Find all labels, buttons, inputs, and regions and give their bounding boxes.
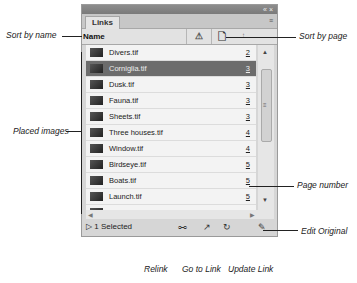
relink-button[interactable]: ⧟	[178, 222, 187, 233]
selection-status: ▷ 1 Selected	[86, 222, 132, 231]
callout-page-number: Page number	[297, 180, 348, 190]
callout-relink: Relink	[144, 264, 168, 274]
sort-by-name-header[interactable]: Name	[83, 32, 105, 41]
page-number-link[interactable]: 3	[246, 61, 250, 76]
horizontal-scrollbar[interactable]: ◀ ▶	[86, 210, 274, 219]
update-link-button[interactable]: ↻	[223, 222, 231, 232]
panel-footer: ▷ 1 Selected ⧟ ↗ ↻ ✎	[82, 220, 277, 236]
links-list: Divers.tif2 Corniglia.tif3 Dusk.tif3 Fau…	[86, 45, 256, 210]
tab-row: Links ≡	[82, 14, 277, 29]
page-number-link[interactable]: 3	[246, 109, 250, 124]
page-number-link[interactable]: 4	[246, 141, 250, 156]
leader-line	[66, 131, 81, 132]
list-item[interactable]: Fauna.tif3	[86, 93, 256, 109]
leader-line	[226, 37, 296, 38]
image-thumbnail	[90, 144, 103, 153]
list-item[interactable]: Three houses.tif4	[86, 125, 256, 141]
image-thumbnail	[90, 48, 103, 57]
image-thumbnail	[90, 160, 103, 169]
image-thumbnail	[90, 112, 103, 121]
bracket-line	[81, 52, 82, 214]
list-item[interactable]: Dusk.tif3	[86, 77, 256, 93]
leader-line	[263, 230, 298, 231]
callout-go-to-link: Go to Link	[182, 264, 221, 274]
page-number-link[interactable]: 5	[246, 157, 250, 172]
list-item[interactable]: Birdseye.tif5	[86, 157, 256, 173]
panel-menu-icon[interactable]: ≡	[269, 17, 273, 24]
page-icon[interactable]: 🗋	[218, 30, 226, 43]
callout-placed-images: Placed images	[13, 126, 69, 136]
callout-sort-by-page: Sort by page	[299, 31, 347, 41]
page-number-link[interactable]: 5	[246, 189, 250, 204]
list-item[interactable]: Divers.tif2	[86, 45, 256, 61]
leader-line	[249, 186, 294, 187]
list-item[interactable]: Launch.tif5	[86, 189, 256, 205]
links-panel: « × Links ≡ Name ⚠ 🗋 ↑ Divers.tif2 Corni…	[81, 4, 278, 237]
scroll-thumb[interactable]: ≡	[261, 69, 272, 142]
list-item-selected[interactable]: Corniglia.tif3	[86, 61, 256, 77]
scroll-up-icon[interactable]: ▲	[262, 49, 268, 55]
scroll-right-icon[interactable]: ▶	[250, 211, 255, 218]
scroll-down-icon[interactable]: ▼	[262, 197, 268, 203]
image-thumbnail	[90, 192, 103, 201]
image-thumbnail	[90, 176, 103, 185]
image-thumbnail	[90, 64, 103, 73]
image-thumbnail	[90, 128, 103, 137]
page-number-link[interactable]: 3	[246, 93, 250, 108]
list-item[interactable]: Sheets.tif3	[86, 109, 256, 125]
callout-sort-by-name: Sort by name	[6, 30, 57, 40]
list-item[interactable]: Window.tif4	[86, 141, 256, 157]
page-number-link[interactable]: 3	[246, 77, 250, 92]
status-warning-icon[interactable]: ⚠	[186, 29, 212, 44]
grip-icon: ≡	[263, 102, 267, 108]
scroll-left-icon[interactable]: ◀	[88, 211, 93, 218]
go-to-link-button[interactable]: ↗	[203, 222, 211, 232]
collapse-close-icon[interactable]: « ×	[263, 5, 273, 14]
image-thumbnail	[90, 96, 103, 105]
image-thumbnail	[90, 80, 103, 89]
page-number-link[interactable]: 2	[246, 45, 250, 60]
callout-edit-original: Edit Original	[301, 226, 347, 236]
list-item[interactable]: Boats.tif5	[86, 173, 256, 189]
tab-links[interactable]: Links	[85, 16, 120, 29]
leader-line	[62, 36, 82, 37]
panel-titlebar: « ×	[82, 5, 277, 14]
disclosure-triangle-icon[interactable]: ▷	[86, 222, 92, 231]
callout-update-link: Update Link	[228, 264, 273, 274]
page-number-link[interactable]: 4	[246, 125, 250, 140]
